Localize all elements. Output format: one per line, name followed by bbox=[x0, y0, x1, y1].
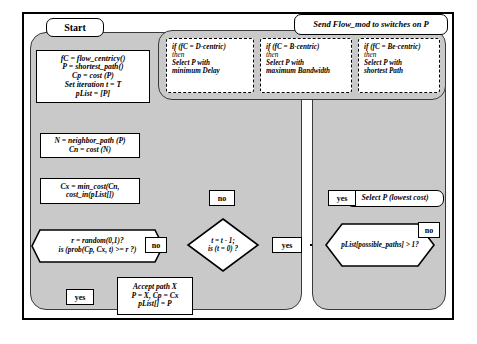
iteration-decision-line1: t = t - 1; bbox=[211, 237, 235, 245]
send-flowmod-banner[interactable]: Send Flow_mod to switches on P bbox=[294, 14, 448, 35]
policy-bandwidth-line2: then bbox=[266, 51, 278, 59]
flowchart-canvas: Start Send Flow_mod to switches on P fC … bbox=[0, 0, 477, 344]
policy-shortest-line2: then bbox=[364, 51, 376, 59]
policy-shortest-line3: Select P with bbox=[364, 59, 402, 67]
policy-shortest-line4: shortest Path bbox=[364, 67, 403, 75]
label-yes-iteration: yes bbox=[272, 237, 302, 253]
paths-decision-line1: pList[possible_paths] > 1? bbox=[341, 241, 419, 249]
iteration-decision[interactable]: t = t - 1; is (t = 0) ? bbox=[186, 217, 260, 273]
policy-delay-line2: then bbox=[172, 51, 184, 59]
start-node[interactable]: Start bbox=[46, 18, 104, 37]
policy-box-delay[interactable]: if (fC = D-centric) then Select P with m… bbox=[166, 38, 254, 93]
label-no-iteration: no bbox=[209, 190, 235, 206]
iteration-decision-line2: is (t = 0) ? bbox=[208, 245, 238, 253]
select-lowest-cost-box[interactable]: Select P (lowest cost) bbox=[346, 190, 444, 207]
policy-shortest-line1: if (fC = Be-centric) bbox=[364, 43, 421, 51]
policy-delay-line1: if (fC = D-centric) bbox=[172, 43, 226, 51]
label-no-random: no bbox=[145, 237, 167, 253]
policy-bandwidth-line4: maximum Bandwidth bbox=[266, 67, 330, 75]
policy-box-bandwidth[interactable]: if (fC = B-centric) then Select P with m… bbox=[260, 38, 352, 93]
neighbor-path-box[interactable]: N = neighbor_path (P) Cn = cost (N) bbox=[40, 133, 140, 158]
accept-path-box[interactable]: Accept path X P = X, Cp = Cx pList[] = P bbox=[117, 277, 193, 315]
policy-bandwidth-line1: if (fC = B-centric) bbox=[266, 43, 319, 51]
policy-bandwidth-line3: Select P with bbox=[266, 59, 304, 67]
initialization-box[interactable]: fC = flow_centricy() P = shortest_path()… bbox=[36, 50, 150, 103]
label-no-paths: no bbox=[418, 222, 440, 238]
random-decision-line2: is (prob(Cp, Cx, t) >= r ?) bbox=[59, 246, 137, 255]
policy-box-shortest[interactable]: if (fC = Be-centric) then Select P with … bbox=[358, 38, 440, 93]
min-cost-box[interactable]: Cx = min_cost(Cn, cost_in(pList[]) bbox=[40, 178, 140, 204]
label-yes-random: yes bbox=[66, 289, 94, 305]
label-yes-paths: yes bbox=[328, 190, 356, 206]
policy-delay-line3: Select P with bbox=[172, 59, 210, 67]
policy-delay-line4: minimum Delay bbox=[172, 67, 220, 75]
